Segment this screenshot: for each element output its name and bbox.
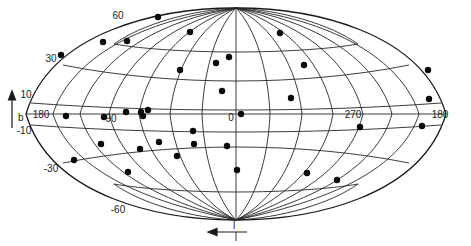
- lat-tick-30: 30: [45, 53, 57, 64]
- l-axis-indicator: l: [208, 220, 247, 241]
- lon-tick-0: 0: [228, 112, 234, 123]
- data-point: [100, 39, 106, 45]
- l-axis-arrow-head: [208, 229, 217, 236]
- data-point: [190, 128, 196, 134]
- b-axis-arrow-head: [9, 91, 16, 100]
- lon-tick-90: 90: [105, 113, 117, 124]
- data-point: [177, 67, 183, 73]
- l-axis-label: l: [233, 220, 235, 231]
- lat-tick-m60: -60: [111, 204, 126, 215]
- lon-tick-270: 270: [345, 109, 362, 120]
- data-point: [138, 109, 144, 115]
- data-point: [213, 60, 219, 66]
- data-point: [419, 123, 425, 129]
- data-point: [156, 139, 162, 145]
- aitoff-projection-canvas: 60 30 10 -10 -30 -60 180 90 0 270 180 b …: [0, 0, 471, 246]
- data-point: [301, 62, 307, 68]
- data-point: [145, 107, 151, 113]
- data-point: [71, 157, 77, 163]
- data-point: [304, 170, 310, 176]
- data-point: [187, 29, 193, 35]
- lon-tick-180-left: 180: [33, 109, 50, 120]
- data-point: [234, 167, 240, 173]
- lat-tick-m10: -10: [17, 125, 32, 136]
- sky-map-figure: 60 30 10 -10 -30 -60 180 90 0 270 180 b …: [0, 0, 471, 246]
- data-point: [58, 52, 64, 58]
- data-point: [224, 143, 230, 149]
- lon-tick-180-right: 180: [432, 109, 449, 120]
- lat-tick-m30: -30: [44, 163, 59, 174]
- data-point: [238, 111, 244, 117]
- data-point: [174, 153, 180, 159]
- data-point: [191, 141, 197, 147]
- lat-tick-10: 10: [20, 89, 32, 100]
- data-point: [137, 146, 143, 152]
- data-point: [426, 96, 432, 102]
- data-point: [277, 30, 283, 36]
- lat-tick-60: 60: [112, 10, 124, 21]
- data-point: [334, 177, 340, 183]
- b-axis-label: b: [18, 112, 24, 123]
- data-point: [98, 141, 104, 147]
- data-point: [288, 95, 294, 101]
- data-point: [63, 113, 69, 119]
- data-point: [125, 169, 131, 175]
- data-point: [124, 38, 130, 44]
- data-point: [425, 67, 431, 73]
- data-point: [123, 109, 129, 115]
- data-point: [219, 88, 225, 94]
- data-point: [155, 14, 161, 20]
- data-point: [226, 54, 232, 60]
- data-point: [357, 124, 363, 130]
